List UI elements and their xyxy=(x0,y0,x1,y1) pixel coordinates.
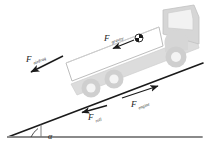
roll-force-arrow xyxy=(82,106,107,113)
gravity-force-symbol: F xyxy=(103,33,110,43)
airdrag-force-subscript: airdrag xyxy=(33,56,48,66)
engine-force-symbol: F xyxy=(130,99,137,109)
angle-arc xyxy=(31,129,38,138)
truck-incline-diagram: F gravity F airdrag F roll F engine α xyxy=(0,0,210,147)
airdrag-force-label: F airdrag xyxy=(25,54,47,65)
airdrag-force-symbol: F xyxy=(25,54,32,64)
rear-wheel-right-hub xyxy=(109,74,118,83)
roll-force-label: F roll xyxy=(87,112,103,123)
cab-window xyxy=(168,9,193,30)
rear-wheel-left-hub xyxy=(86,83,95,92)
engine-force-label: F engine xyxy=(130,99,150,110)
truck-graphic xyxy=(66,5,199,98)
diagram-canvas: F gravity F airdrag F roll F engine α xyxy=(0,0,210,147)
engine-force-subscript: engine xyxy=(138,102,151,111)
roll-force-symbol: F xyxy=(87,112,94,122)
roll-force-subscript: roll xyxy=(95,116,103,123)
center-of-mass-icon xyxy=(135,34,143,42)
front-wheel-hub xyxy=(171,52,181,62)
